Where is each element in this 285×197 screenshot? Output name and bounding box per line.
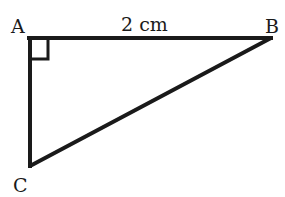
side-label-ab: 2 cm [121,13,168,35]
right-angle-marker [30,38,48,59]
vertex-label-c: C [13,174,28,196]
triangle-diagram: A B C 2 cm [0,0,285,197]
vertex-label-b: B [265,15,279,37]
side-bc [30,38,271,166]
vertex-label-a: A [10,15,25,37]
